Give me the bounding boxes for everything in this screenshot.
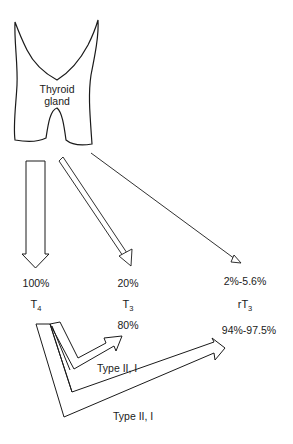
- t3-label: T3: [123, 298, 134, 313]
- rt3-enzyme-label: Type II, I: [113, 410, 153, 422]
- thyroid-hormone-diagram: [0, 0, 293, 444]
- t4-label: T4: [31, 298, 42, 313]
- rt3-percent: 2%-5.6%: [224, 275, 267, 287]
- t4-secretion-arrow: [22, 161, 49, 268]
- t3-enzyme-label: Type II, I: [97, 362, 137, 374]
- rt3-label: rT3: [238, 298, 253, 313]
- t3-secretion-arrow: [59, 157, 132, 266]
- gland-label: Thyroid gland: [39, 83, 74, 107]
- rt3-secretion-arrow: [91, 153, 241, 263]
- gland-label-line2: gland: [39, 95, 74, 107]
- t3-percent: 20%: [117, 277, 138, 289]
- rt3-conversion-percent: 94%-97.5%: [222, 324, 276, 336]
- t3-conversion-percent: 80%: [117, 319, 138, 331]
- gland-label-line1: Thyroid: [39, 83, 74, 95]
- t4-percent: 100%: [23, 277, 50, 289]
